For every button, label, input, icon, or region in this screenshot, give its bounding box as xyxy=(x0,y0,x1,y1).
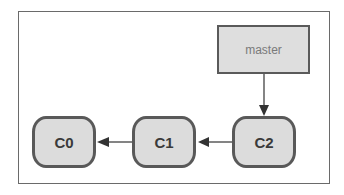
commit-label: C2 xyxy=(254,134,273,151)
branch-label: master xyxy=(245,43,282,57)
commit-c2: C2 xyxy=(232,116,296,168)
commit-c0: C0 xyxy=(32,116,96,168)
branch-master: master xyxy=(217,25,310,74)
commit-label: C1 xyxy=(154,134,173,151)
commit-c1: C1 xyxy=(132,116,196,168)
commit-label: C0 xyxy=(54,134,73,151)
